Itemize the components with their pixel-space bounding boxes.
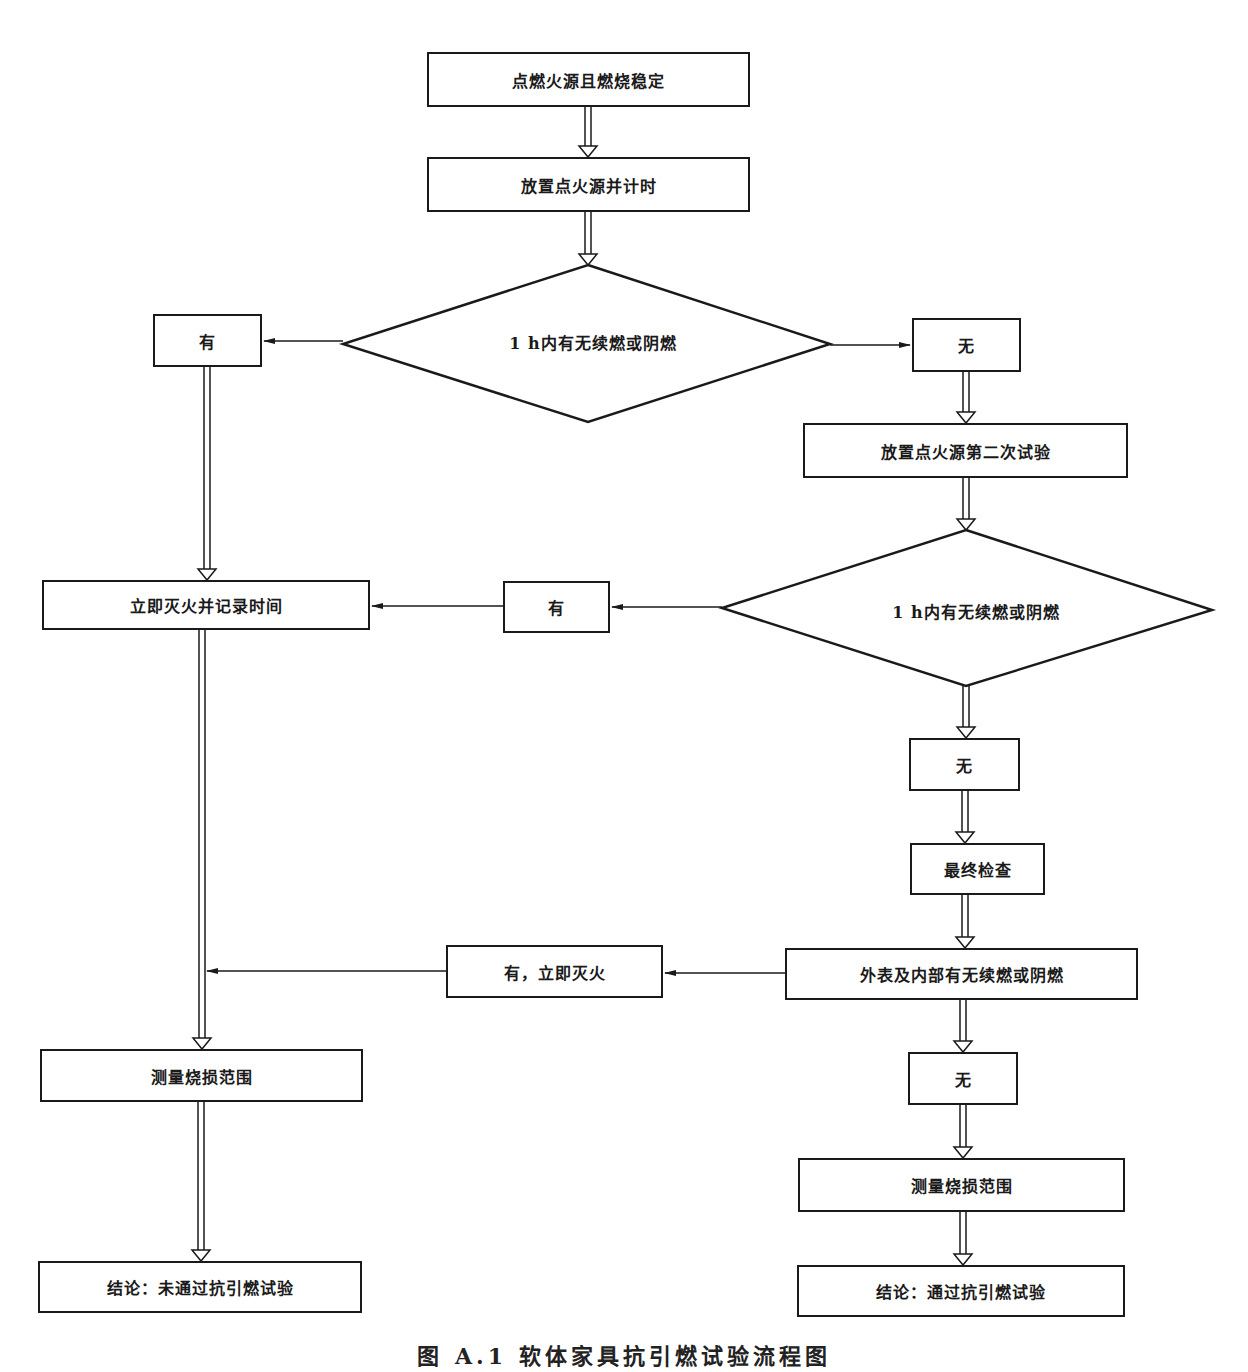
no1-label: 无 [958,333,975,357]
no1-box: 无 [912,318,1021,372]
arrow-final-to-surface [956,895,974,948]
arrow-surface-to-no3 [954,1000,972,1052]
place-timer-box: 放置点火源并计时 [427,157,750,212]
arrow-extinguish-to-measure-left [193,630,211,1049]
place-timer-label: 放置点火源并计时 [521,173,657,197]
arrow-measure-left-to-fail [192,1102,210,1261]
no3-label: 无 [955,1067,972,1091]
measure-right-box: 测量烧损范围 [798,1158,1125,1212]
yes3-box: 有，立即灭火 [446,945,663,998]
yes2-label: 有 [548,595,565,619]
measure-right-label: 测量烧损范围 [911,1173,1013,1197]
extinguish-record-label: 立即灭火并记录时间 [130,593,283,617]
arrow-no1-to-second [957,372,975,423]
extinguish-record-box: 立即灭火并记录时间 [42,580,370,630]
arrow-yes1-to-extinguish [198,367,216,580]
decision2-label: 1 h内有无续燃或阴燃 [892,599,1059,623]
surface-interior-check-label: 外表及内部有无续燃或阴燃 [860,962,1064,986]
yes1-box: 有 [153,314,262,367]
conclusion-pass-box: 结论：通过抗引燃试验 [797,1265,1125,1317]
figure-caption: 图 A.1 软体家具抗引燃试验流程图 [0,1338,1248,1370]
second-test-box: 放置点火源第二次试验 [803,423,1128,478]
final-check-label: 最终检查 [944,857,1012,881]
arrow-second-to-decision2 [957,478,975,530]
second-test-label: 放置点火源第二次试验 [881,439,1051,463]
arrow-place-to-decision1 [579,212,597,265]
no3-box: 无 [908,1052,1018,1105]
decision1-label: 1 h内有无续燃或阴燃 [509,330,676,354]
surface-interior-check-box: 外表及内部有无续燃或阴燃 [785,948,1138,1000]
arrow-measure-right-to-pass [954,1212,972,1265]
arrow-decision2-to-no2 [957,686,975,738]
arrow-start-to-place [579,107,597,157]
conclusion-fail-label: 结论：未通过抗引燃试验 [107,1275,294,1299]
no2-label: 无 [956,753,973,777]
conclusion-pass-label: 结论：通过抗引燃试验 [876,1279,1046,1303]
measure-left-label: 测量烧损范围 [151,1064,253,1088]
yes3-label: 有，立即灭火 [504,960,606,984]
measure-left-box: 测量烧损范围 [40,1049,363,1102]
arrow-no2-to-final [956,791,974,843]
start-label: 点燃火源且燃烧稳定 [512,68,665,92]
start-box: 点燃火源且燃烧稳定 [427,52,750,107]
final-check-box: 最终检查 [910,843,1045,895]
no2-box: 无 [909,738,1020,791]
conclusion-fail-box: 结论：未通过抗引燃试验 [38,1261,362,1313]
yes1-label: 有 [199,329,216,353]
arrow-no3-to-measure-right [954,1105,972,1158]
yes2-box: 有 [503,581,610,633]
